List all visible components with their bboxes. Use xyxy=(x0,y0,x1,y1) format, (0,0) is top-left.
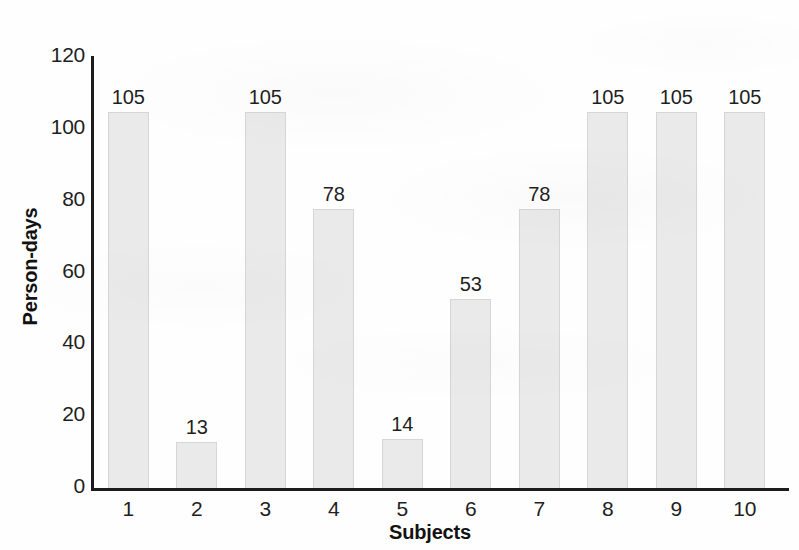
y-axis-tick-labels: 020406080100120 xyxy=(0,0,85,550)
x-axis-tick-label: 8 xyxy=(578,497,638,521)
y-axis-tick-label: 0 xyxy=(74,474,85,498)
bar-value-label: 78 xyxy=(499,183,579,206)
bar xyxy=(382,439,423,489)
bar-chart-figure: 020406080100120 Person-days Subjects 105… xyxy=(0,0,799,550)
x-axis-tick-label: 5 xyxy=(372,497,432,521)
x-axis-tick-label: 2 xyxy=(167,497,227,521)
y-axis-title: Person-days xyxy=(19,192,42,342)
x-axis-tick-label: 7 xyxy=(509,497,569,521)
y-axis-tick-label: 100 xyxy=(51,115,85,139)
bar-value-label: 78 xyxy=(294,183,374,206)
y-axis-tick-label: 60 xyxy=(62,259,85,283)
y-axis-line xyxy=(91,56,94,491)
x-axis-tick-label: 1 xyxy=(98,497,158,521)
x-axis-tick-label: 9 xyxy=(646,497,706,521)
y-axis-tick-label: 40 xyxy=(62,330,85,354)
bar-value-label: 105 xyxy=(88,86,168,109)
bar xyxy=(245,112,286,489)
bar-value-label: 14 xyxy=(362,413,442,436)
bar xyxy=(656,112,697,489)
bar xyxy=(450,299,491,489)
bar-value-label: 13 xyxy=(157,416,237,439)
bar xyxy=(519,209,560,489)
bar xyxy=(587,112,628,489)
x-axis-tick-label: 4 xyxy=(304,497,364,521)
y-axis-tick-label: 120 xyxy=(51,43,85,67)
x-axis-line xyxy=(91,488,789,491)
bar-value-label: 53 xyxy=(431,273,511,296)
y-axis-tick-label: 20 xyxy=(62,402,85,426)
x-axis-title: Subjects xyxy=(330,521,530,544)
x-axis-tick-label: 10 xyxy=(715,497,775,521)
bar xyxy=(724,112,765,489)
bar-value-label: 105 xyxy=(705,86,785,109)
bar-value-label: 105 xyxy=(225,86,305,109)
x-axis-tick-label: 3 xyxy=(235,497,295,521)
bar xyxy=(176,442,217,489)
bar xyxy=(313,209,354,489)
x-axis-tick-label: 6 xyxy=(441,497,501,521)
y-axis-tick-label: 80 xyxy=(62,187,85,211)
bar xyxy=(108,112,149,489)
